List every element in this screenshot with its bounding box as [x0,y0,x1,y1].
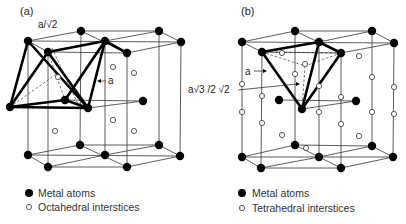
arrowhead-icon [263,69,267,73]
open-circle-icon [239,205,244,210]
legend-metal-atoms: Metal atoms [252,187,309,199]
panel-a-metal-atoms [6,27,185,171]
panel-b-height-label: a√3 /2 √2 [188,84,230,95]
filled-circle-icon [25,189,33,197]
legend-tetrahedral-interstices: Tetrahedral interstices [252,202,355,214]
panel-a-label: (a) [20,5,33,17]
panel-a-top-dimension-label: a/√2 [38,19,58,30]
open-circle-icon [26,204,31,209]
arrowhead-icon [296,82,300,86]
panel-b-legend: Metal atoms Tetrahedral interstices [238,187,355,214]
panel-b-label: (b) [241,5,254,17]
filled-circle-icon [238,189,246,197]
hcp-interstices-figure: (a) a/√2 [0,0,406,224]
panel-b: (b) [188,5,398,214]
legend-octahedral-interstices: Octahedral interstices [38,201,140,213]
legend-metal-atoms: Metal atoms [38,187,95,199]
panel-b-edge-label: a [245,66,251,77]
panel-a-legend: Metal atoms Octahedral interstices [25,187,140,213]
panel-a-edge-label: a [108,75,114,86]
panel-a: (a) a/√2 [6,5,185,213]
arrowhead-icon [97,79,101,83]
